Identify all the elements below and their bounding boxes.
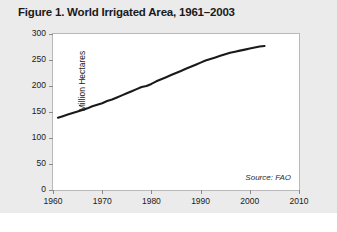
y-tick-label: 0 (41, 184, 46, 194)
source-note: Source: FAO (245, 173, 291, 182)
y-tick-label: 300 (32, 28, 46, 38)
x-tick-mark (102, 190, 103, 194)
x-tick-mark (53, 190, 54, 194)
x-tick-label: 2010 (279, 196, 319, 206)
x-tick-label: 1970 (82, 196, 122, 206)
y-tick-label: 200 (32, 80, 46, 90)
y-tick-label: 250 (32, 54, 46, 64)
x-tick-label: 1990 (181, 196, 221, 206)
figure-title: Figure 1. World Irrigated Area, 1961–200… (18, 6, 235, 18)
series-line-world-irrigated-area (53, 34, 299, 190)
x-tick-label: 1980 (131, 196, 171, 206)
x-tick-label: 2000 (230, 196, 270, 206)
x-tick-mark (299, 190, 300, 194)
y-tick-label: 50 (37, 158, 46, 168)
x-tick-mark (151, 190, 152, 194)
x-tick-mark (250, 190, 251, 194)
plot-inner (53, 34, 299, 190)
y-tick-label: 100 (32, 132, 46, 142)
figure-panel: Figure 1. World Irrigated Area, 1961–200… (0, 0, 337, 213)
plot-area: Million Hectares 050100150200250300 1960… (52, 33, 300, 191)
x-tick-mark (201, 190, 202, 194)
x-tick-label: 1960 (33, 196, 73, 206)
y-tick-label: 150 (32, 106, 46, 116)
